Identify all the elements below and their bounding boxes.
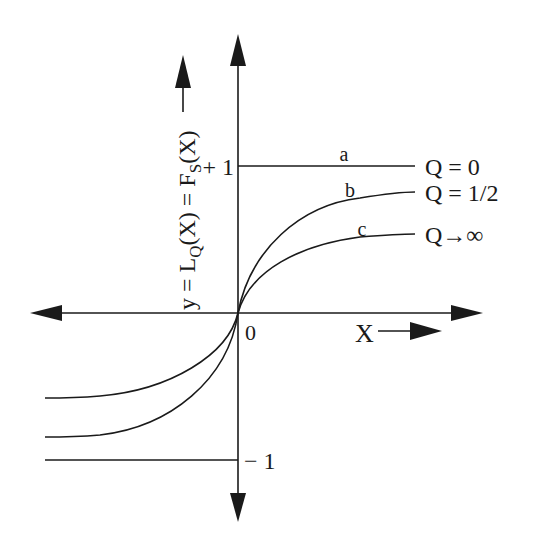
y-axis-label: y = LQ(X) = FS(X)	[174, 131, 205, 310]
legend-q-infinity: Q→∞	[425, 222, 483, 248]
curve-a-label: a	[340, 143, 349, 165]
y-tick-minus-one: − 1	[244, 448, 276, 474]
curve-b	[238, 192, 415, 313]
y-tick-plus-one: + 1	[202, 154, 234, 180]
curve-b-label: b	[345, 179, 355, 201]
curve-c	[238, 234, 415, 313]
origin-label: 0	[245, 320, 256, 345]
curve-b-lower	[45, 313, 238, 437]
x-axis-left-arrow-icon	[30, 305, 62, 321]
legend-q-half: Q = 1/2	[425, 180, 499, 206]
y-axis-up-arrow-icon	[230, 34, 246, 66]
y-axis-down-arrow-icon	[230, 493, 246, 522]
svg-text:y = LQ(X) = FS(X): y = LQ(X) = FS(X)	[174, 131, 205, 310]
curve-c-label: c	[358, 218, 367, 240]
x-label-arrow-icon	[410, 322, 442, 340]
legend-q-0: Q = 0	[425, 154, 480, 180]
curve-c-lower	[45, 313, 238, 398]
x-axis	[30, 305, 483, 321]
x-axis-right-arrow-icon	[451, 305, 483, 321]
diagram-canvas: a b c Q = 0 Q = 1/2 Q→∞ + 1 − 1 0 X y = …	[0, 0, 545, 555]
y-label-arrow-icon	[175, 55, 191, 88]
x-axis-label: X	[355, 319, 374, 348]
